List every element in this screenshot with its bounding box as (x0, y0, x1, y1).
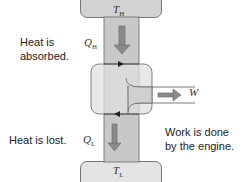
cold-temperature-label: TL (113, 164, 123, 179)
engine-flow-graphic (0, 0, 243, 182)
heat-in-label: QH (84, 36, 97, 51)
caption-line: Heat is (20, 35, 69, 49)
heat-out-label: QL (83, 133, 95, 148)
heat-engine-diagram: TH TL QH QL W Heat is absorbed. Heat is … (0, 0, 243, 182)
heat-absorbed-caption: Heat is absorbed. (20, 35, 69, 63)
work-label: W (189, 86, 198, 98)
caption-line: by the engine. (165, 139, 234, 153)
work-arrow-icon (158, 89, 181, 101)
heat-lost-caption: Heat is lost. (9, 133, 66, 147)
hot-temperature-label: TH (113, 3, 124, 18)
work-done-caption: Work is done by the engine. (165, 125, 234, 153)
caption-line: absorbed. (20, 49, 69, 63)
caption-line: Work is done (165, 125, 234, 139)
